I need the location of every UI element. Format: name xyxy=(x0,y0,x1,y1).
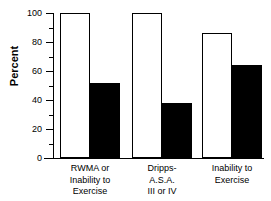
y-axis-minor-tick xyxy=(49,57,53,58)
y-axis-tick-label: 80 xyxy=(2,38,42,47)
bar-filled-bar-group-1 xyxy=(90,83,120,158)
category-label-3: Inability to Exercise xyxy=(187,163,271,186)
y-axis-tick-label: 40 xyxy=(2,96,42,105)
y-axis-minor-tick xyxy=(49,144,53,145)
bar-open-bar-group-3 xyxy=(202,33,232,158)
y-axis-minor-tick xyxy=(49,115,53,116)
y-axis-tick-label: 20 xyxy=(2,125,42,134)
bar-open-bar-group-2 xyxy=(132,13,162,158)
bar-filled-bar-group-3 xyxy=(232,65,262,158)
y-axis-tick-label: 100 xyxy=(2,9,42,18)
y-axis-major-tick xyxy=(46,129,53,130)
y-axis-major-tick xyxy=(46,100,53,101)
y-axis-major-tick xyxy=(46,13,53,14)
plot-area xyxy=(54,13,262,158)
y-axis-major-tick xyxy=(46,158,53,159)
y-axis-tick-label: 60 xyxy=(2,67,42,76)
x-axis-line xyxy=(44,158,264,159)
y-axis-minor-tick xyxy=(49,86,53,87)
y-axis-major-tick xyxy=(46,42,53,43)
bar-open-bar-group-1 xyxy=(60,13,90,158)
y-axis-major-tick xyxy=(46,71,53,72)
bar-chart: Percent 020406080100 RWMA or Inability t… xyxy=(0,0,271,201)
bar-filled-bar-group-2 xyxy=(162,103,192,158)
y-axis-tick-label: 0 xyxy=(2,154,42,163)
y-axis-minor-tick xyxy=(49,28,53,29)
